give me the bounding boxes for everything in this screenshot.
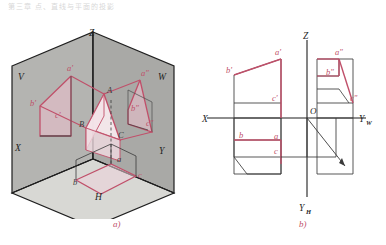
label-plane-w: W <box>158 72 167 82</box>
label-axis-z: Z <box>89 28 95 38</box>
label-axis-x-b: X <box>201 114 209 124</box>
label-axis-yh-sub: H <box>305 208 312 215</box>
label-point-C: C <box>118 130 124 140</box>
figure-page: 第三章 点、直线与平面的投影 <box>0 0 386 245</box>
label-axis-x: X <box>14 143 22 153</box>
label-a-dprime: a" <box>141 68 149 78</box>
figure-b-orthographic: X Y W Z Y H O a' b' c' a" b" c" b a c <box>193 14 386 219</box>
label-a-h: a <box>117 154 121 164</box>
label-axis-z-b: Z <box>303 31 309 41</box>
label-b-b-dprime: b" <box>326 67 334 77</box>
label-b-c: c <box>274 146 278 156</box>
label-point-B: B <box>79 119 84 129</box>
label-b-prime: b' <box>30 98 36 108</box>
label-a-prime: a' <box>67 63 73 73</box>
caption-a: a) <box>113 219 121 229</box>
label-c-prime: c' <box>55 110 61 120</box>
page-header-text: 第三章 点、直线与平面的投影 <box>8 1 188 10</box>
figure-a-pictorial: V W H X Y Z A B C a' b' c' a" b" c" a b … <box>0 14 193 219</box>
label-axis-yw-sub: W <box>366 119 373 126</box>
label-c-h: c <box>138 170 142 180</box>
label-c-dprime: c" <box>146 118 154 128</box>
label-axis-yw-b: Y <box>359 114 366 124</box>
label-b-b-prime: b' <box>226 65 232 75</box>
label-b-c-prime: c' <box>272 93 278 103</box>
label-b-b: b <box>239 130 243 140</box>
label-axis-yh-b: Y <box>299 203 306 213</box>
mitre-45-line <box>307 118 345 166</box>
front-view-triangle-red <box>234 59 281 75</box>
label-b-c-dprime: c" <box>350 93 358 103</box>
label-b-a-dprime: a" <box>335 47 343 57</box>
caption-b: b) <box>299 219 307 229</box>
label-b-h: b <box>73 177 77 187</box>
label-origin-o: O <box>310 106 317 116</box>
label-plane-h: H <box>94 192 103 202</box>
label-b-dprime: b" <box>131 103 139 113</box>
side-view-thin-diagonal <box>339 89 349 103</box>
label-point-A: A <box>106 85 113 95</box>
label-b-a-prime: a' <box>275 47 281 57</box>
label-b-a: a <box>274 131 278 141</box>
